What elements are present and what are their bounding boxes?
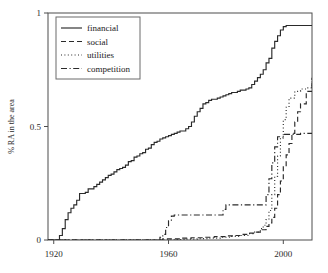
chart-root: 00.51192019602000% RA in the areafinanci… — [0, 0, 328, 273]
series-line-social — [48, 78, 312, 240]
legend-label-utilities: utilities — [87, 50, 114, 60]
x-tick-label: 2000 — [274, 249, 293, 259]
y-tick-label: 0.5 — [30, 122, 42, 132]
legend-label-competition: competition — [87, 64, 130, 74]
legend-label-social: social — [87, 37, 108, 47]
y-axis-title: % RA in the area — [7, 99, 16, 154]
series-line-competition — [48, 133, 312, 240]
y-tick-label: 1 — [37, 8, 42, 18]
series-line-utilities — [48, 81, 312, 240]
x-tick-label: 1960 — [160, 249, 179, 259]
legend-label-financial: financial — [87, 23, 119, 33]
x-tick-label: 1920 — [45, 249, 64, 259]
line-chart: 00.51192019602000% RA in the areafinanci… — [0, 0, 328, 273]
y-tick-label: 0 — [37, 235, 42, 245]
